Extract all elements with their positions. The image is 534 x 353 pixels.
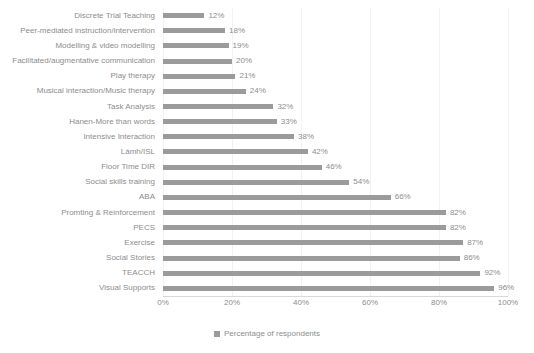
bar (163, 180, 349, 185)
legend-item[interactable]: Percentage of respondents (214, 330, 320, 338)
bar-row: 24% (163, 84, 508, 99)
bar (163, 119, 277, 124)
bar (163, 134, 294, 139)
category-label: Intensive Interaction (0, 129, 158, 144)
bar (163, 89, 246, 94)
category-axis-labels: Discrete Trial TeachingPeer-mediated ins… (0, 8, 158, 296)
bar-value-label: 33% (281, 118, 297, 126)
category-label: ABA (0, 190, 158, 205)
bar (163, 74, 235, 79)
bar-value-label: 92% (484, 269, 500, 277)
bar-value-label: 96% (498, 284, 514, 292)
bar (163, 286, 494, 291)
bar (163, 256, 460, 261)
bar-value-label: 19% (233, 42, 249, 50)
x-tick-label: 20% (224, 299, 240, 307)
bar-value-label: 82% (450, 224, 466, 232)
x-tick-label: 0% (157, 299, 169, 307)
category-label: Modelling & video modelling (0, 38, 158, 53)
x-tick-label: 40% (293, 299, 309, 307)
bar-row: 42% (163, 144, 508, 159)
plot-area: 12%18%19%20%21%24%32%33%38%42%46%54%66%8… (163, 8, 508, 296)
bar-chart: Discrete Trial TeachingPeer-mediated ins… (0, 0, 534, 353)
category-label: Visual Supports (0, 281, 158, 296)
bar (163, 43, 229, 48)
bar-row: 54% (163, 175, 508, 190)
bar-row: 46% (163, 160, 508, 175)
bar-value-label: 20% (236, 57, 252, 65)
category-label: Musical interaction/Music therapy (0, 84, 158, 99)
bar-row: 21% (163, 69, 508, 84)
bar-row: 87% (163, 235, 508, 250)
legend-swatch-icon (214, 331, 220, 337)
bar-value-label: 66% (395, 193, 411, 201)
bar-row: 92% (163, 266, 508, 281)
bar-row: 86% (163, 251, 508, 266)
bar (163, 104, 273, 109)
x-tick-label: 80% (431, 299, 447, 307)
bar-row: 32% (163, 99, 508, 114)
bar-row: 18% (163, 23, 508, 38)
bar-row: 38% (163, 129, 508, 144)
category-label: Exercise (0, 235, 158, 250)
bar-value-label: 32% (277, 103, 293, 111)
bar-value-label: 86% (464, 254, 480, 262)
bar-row: 66% (163, 190, 508, 205)
bar-value-label: 82% (450, 209, 466, 217)
category-label: Peer-mediated instruction/intervention (0, 23, 158, 38)
category-label: Social Stories (0, 251, 158, 266)
bar-row: 82% (163, 220, 508, 235)
bar-value-label: 46% (326, 163, 342, 171)
x-axis-tick-labels: 0%20%40%60%80%100% (163, 299, 508, 313)
legend-label: Percentage of respondents (224, 330, 320, 338)
bar-row: 12% (163, 8, 508, 23)
bar-row: 96% (163, 281, 508, 296)
bar-value-label: 38% (298, 133, 314, 141)
bar (163, 271, 480, 276)
bar-row: 82% (163, 205, 508, 220)
bar-value-label: 12% (208, 12, 224, 20)
bar (163, 165, 322, 170)
bar-value-label: 21% (239, 72, 255, 80)
category-label: Social skills training (0, 175, 158, 190)
bar-row: 33% (163, 114, 508, 129)
bar-value-label: 24% (250, 87, 266, 95)
category-label: Facilitated/augmentative communication (0, 53, 158, 68)
category-label: TEACCH (0, 266, 158, 281)
category-label: Play therapy (0, 69, 158, 84)
bar (163, 13, 204, 18)
chart-legend: Percentage of respondents (0, 330, 534, 338)
category-label: Floor Time DIR (0, 160, 158, 175)
bar (163, 240, 463, 245)
x-tick-label: 100% (498, 299, 518, 307)
bar (163, 149, 308, 154)
bar-row: 20% (163, 53, 508, 68)
category-label: Hanen-More than words (0, 114, 158, 129)
category-label: PECS (0, 220, 158, 235)
bar-value-label: 87% (467, 239, 483, 247)
x-axis-line (163, 296, 508, 297)
category-label: Lámh/ISL (0, 144, 158, 159)
bar (163, 28, 225, 33)
gridline (508, 8, 509, 296)
category-label: Discrete Trial Teaching (0, 8, 158, 23)
bar-value-label: 42% (312, 148, 328, 156)
bar-series: 12%18%19%20%21%24%32%33%38%42%46%54%66%8… (163, 8, 508, 296)
bar (163, 210, 446, 215)
category-label: Promting & Reinforcement (0, 205, 158, 220)
x-tick-label: 60% (362, 299, 378, 307)
bar-value-label: 54% (353, 178, 369, 186)
bar (163, 59, 232, 64)
category-label: Task Analysis (0, 99, 158, 114)
bar-row: 19% (163, 38, 508, 53)
bar (163, 195, 391, 200)
bar (163, 225, 446, 230)
bar-value-label: 18% (229, 27, 245, 35)
